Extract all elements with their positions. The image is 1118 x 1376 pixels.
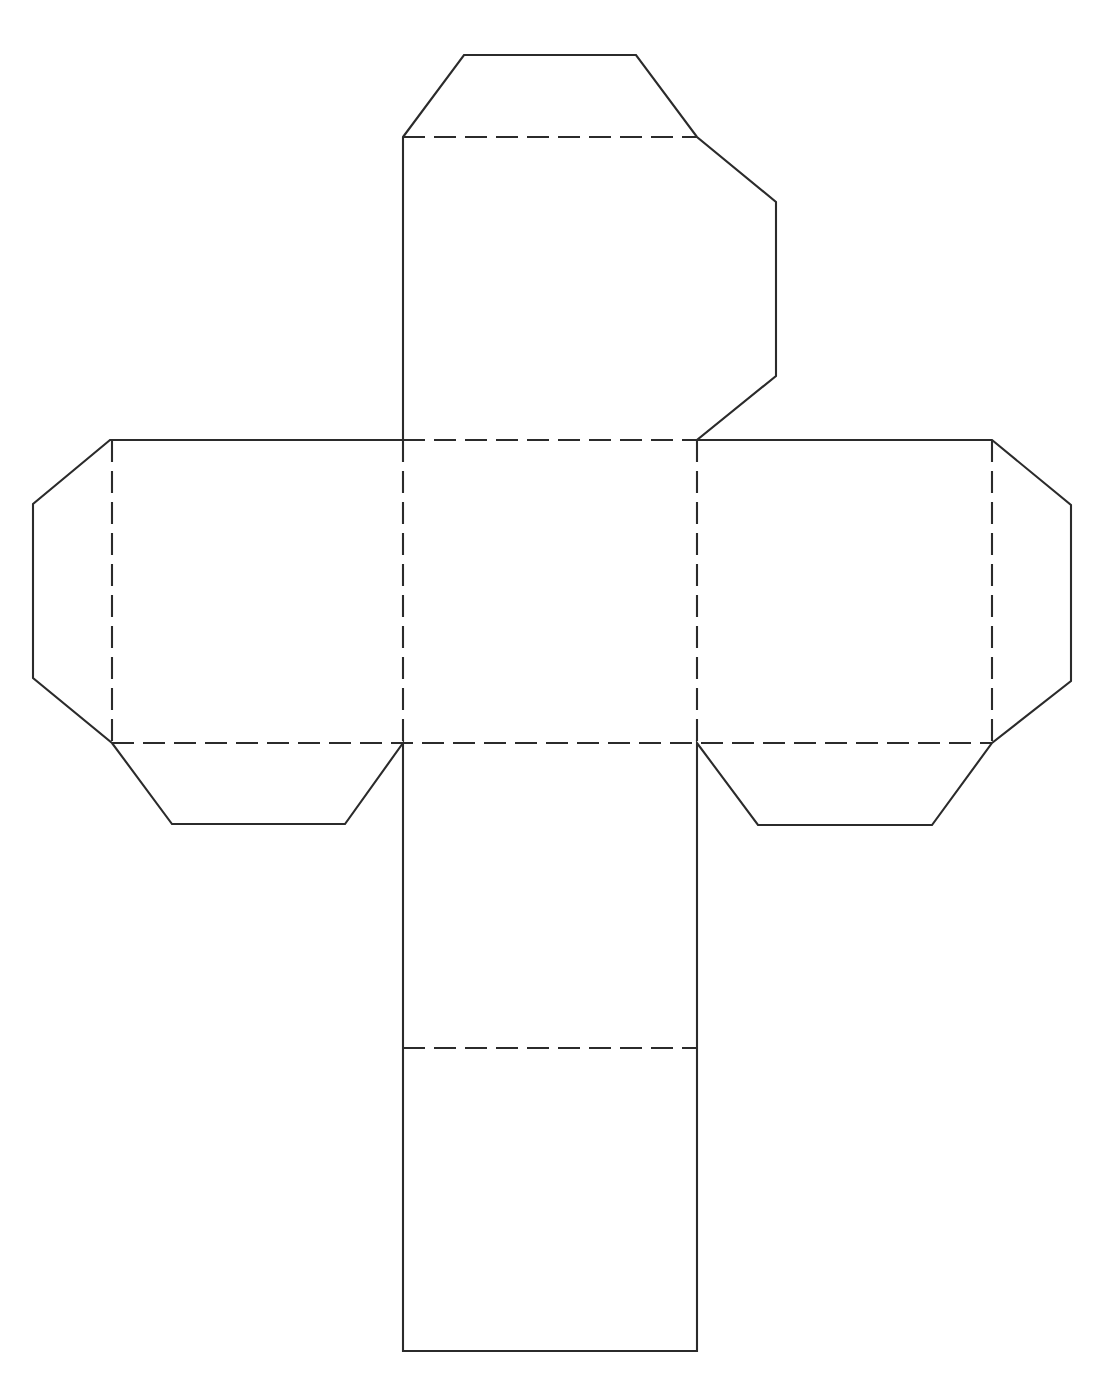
cube-net-drawing xyxy=(0,0,1118,1376)
cube-net-canvas xyxy=(0,0,1118,1376)
page-background xyxy=(0,0,1118,1376)
